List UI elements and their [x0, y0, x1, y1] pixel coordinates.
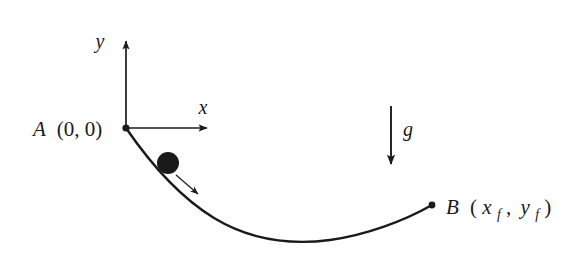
point-a-marker	[122, 124, 129, 131]
diagram-canvas: y x A (0, 0) B ( x f , y f ) g	[0, 0, 578, 253]
physics-diagram: y x A (0, 0) B ( x f , y f ) g	[0, 0, 578, 253]
x-axis-label: x	[198, 96, 208, 118]
point-a-name: A	[31, 117, 46, 141]
point-b-x-subscript: f	[497, 207, 503, 222]
point-a-coords: (0, 0)	[57, 117, 103, 141]
point-b-x-var: x	[481, 195, 492, 219]
point-b-y-var: y	[519, 195, 531, 219]
y-axis-label: y	[94, 30, 105, 53]
point-b-comma: ,	[506, 195, 511, 219]
sliding-ball	[157, 152, 179, 174]
point-b-open-paren: (	[470, 195, 477, 219]
point-b-y-subscript: f	[535, 207, 541, 222]
point-b-name: B	[446, 195, 459, 219]
gravity-label: g	[403, 118, 413, 141]
point-b-marker	[429, 202, 436, 209]
point-b-close-paren: )	[544, 195, 551, 219]
point-a-label: A (0, 0)	[31, 117, 102, 141]
